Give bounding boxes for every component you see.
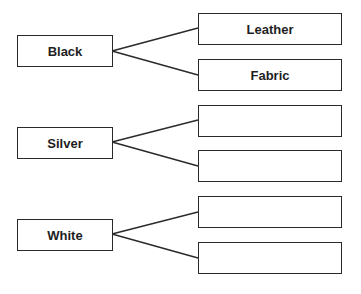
node-black-child-fabric: Fabric (198, 59, 342, 91)
node-silver-child-empty-1[interactable] (198, 105, 342, 137)
connector-white-bottom (112, 234, 198, 258)
node-black-child-leather: Leather (198, 13, 342, 45)
node-silver: Silver (17, 127, 113, 159)
connector-black-fabric (112, 51, 198, 75)
node-white-child-empty-2[interactable] (198, 242, 342, 274)
node-white: White (17, 219, 113, 251)
connector-silver-bottom (112, 142, 198, 166)
node-black: Black (17, 35, 113, 67)
connector-black-leather (112, 28, 198, 51)
connector-white-top (112, 212, 198, 234)
node-white-child-empty-1[interactable] (198, 196, 342, 228)
node-silver-child-empty-2[interactable] (198, 150, 342, 182)
connector-silver-top (112, 120, 198, 142)
